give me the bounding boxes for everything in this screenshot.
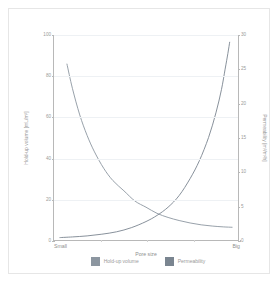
right-axis-tick-label: 0 — [241, 239, 244, 244]
curve-layer — [54, 35, 238, 240]
chart-figure: 020406080100051015202530SmallBig Hold-up… — [0, 0, 278, 282]
left-axis-tick-label: 40 — [46, 156, 51, 161]
right-axis-tick-label: 5 — [241, 204, 244, 209]
legend-label: Hold-up volume — [104, 259, 139, 264]
x-axis-tick-label: Small — [54, 244, 67, 249]
gridline — [54, 35, 238, 36]
gridline — [54, 200, 238, 201]
left-axis-tick-mark — [52, 76, 54, 77]
left-axis-tick-label: 100 — [43, 33, 51, 38]
series-line-permeability — [60, 42, 230, 238]
left-axis-tick-label: 0 — [48, 239, 51, 244]
chart-legend: Hold-up volumePermeability — [17, 257, 278, 266]
right-axis-tick-label: 30 — [241, 33, 246, 38]
gridline — [54, 159, 238, 160]
right-axis-tick-mark — [238, 104, 240, 105]
plot-area: 020406080100051015202530SmallBig — [53, 35, 239, 241]
right-axis-tick-mark — [238, 172, 240, 173]
gridline — [54, 76, 238, 77]
right-axis-tick-mark — [238, 69, 240, 70]
legend-swatch-icon — [91, 257, 100, 266]
x-axis-minor-tick-mark — [101, 240, 102, 242]
legend-item[interactable]: Hold-up volume — [91, 257, 139, 266]
right-axis-tick-mark — [238, 35, 240, 36]
left-axis-tick-mark — [52, 35, 54, 36]
left-axis-tick-mark — [52, 159, 54, 160]
left-axis-tick-label: 60 — [46, 115, 51, 120]
right-axis-tick-label: 10 — [241, 170, 246, 175]
right-axis-tick-mark — [238, 138, 240, 139]
right-axis-tick-label: 25 — [241, 67, 246, 72]
right-axis-label: Permeability [m³/m²h] — [262, 114, 267, 162]
left-axis-tick-label: 20 — [46, 198, 51, 203]
series-line-hold-up-volume — [67, 64, 233, 228]
x-axis-minor-tick-mark — [194, 240, 195, 242]
left-axis-tick-mark — [52, 200, 54, 201]
right-axis-tick-label: 20 — [241, 101, 246, 106]
left-axis-label: Hold-up volume [mL/m²] — [24, 111, 29, 164]
x-axis-minor-tick-mark — [147, 240, 148, 242]
chart-frame: 020406080100051015202530SmallBig Hold-up… — [8, 8, 270, 274]
legend-label: Permeability — [178, 259, 206, 264]
legend-swatch-icon — [165, 257, 174, 266]
right-axis-tick-mark — [238, 207, 240, 208]
x-axis-tick-mark — [54, 240, 55, 242]
gridline — [54, 117, 238, 118]
x-axis-tick-mark — [240, 240, 241, 242]
left-axis-tick-label: 80 — [46, 74, 51, 79]
right-axis-tick-label: 15 — [241, 136, 246, 141]
x-axis-tick-label: Big — [233, 244, 241, 249]
left-axis-tick-mark — [52, 117, 54, 118]
legend-item[interactable]: Permeability — [165, 257, 206, 266]
